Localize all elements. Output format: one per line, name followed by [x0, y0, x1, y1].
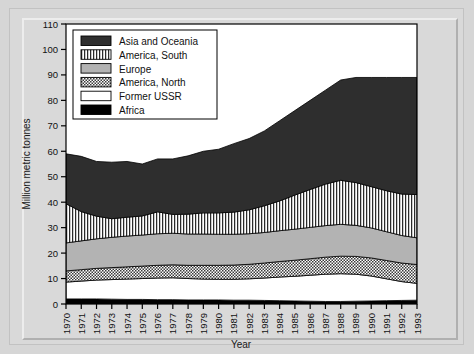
legend-swatch-america-north	[81, 77, 111, 87]
y-axis-ticks: 0102030405060708090100110	[42, 19, 66, 310]
figure-container: 0102030405060708090100110 19701971197219…	[0, 0, 474, 354]
x-tick-label: 1982	[244, 313, 255, 334]
y-tick-label: 100	[42, 44, 58, 55]
legend-swatch-africa	[81, 105, 111, 115]
x-tick-label: 1984	[274, 313, 285, 334]
x-tick-label: 1986	[305, 313, 316, 334]
y-tick-label: 80	[47, 95, 58, 106]
x-tick-label: 1977	[167, 313, 178, 334]
y-tick-label: 90	[47, 69, 58, 80]
x-tick-label: 1993	[412, 313, 423, 334]
legend-label: Asia and Oceania	[119, 36, 198, 47]
legend-label: Former USSR	[119, 91, 182, 102]
x-tick-label: 1975	[137, 313, 148, 334]
x-tick-label: 1989	[350, 313, 361, 334]
y-tick-label: 60	[47, 146, 58, 157]
chart-plot-wrapper: 0102030405060708090100110 19701971197219…	[0, 0, 474, 354]
x-tick-label: 1987	[320, 313, 331, 334]
y-tick-label: 50	[47, 171, 58, 182]
x-tick-label: 1992	[396, 313, 407, 334]
x-tick-label: 1976	[152, 313, 163, 334]
x-tick-label: 1979	[198, 313, 209, 334]
x-tick-label: 1970	[61, 313, 72, 334]
y-tick-label: 10	[47, 273, 58, 284]
y-tick-label: 110	[43, 19, 58, 30]
y-tick-label: 0	[53, 299, 58, 310]
y-axis-title: Million metric tonnes	[21, 118, 32, 209]
x-axis-ticks: 1970197119721973197419751976197719781979…	[61, 304, 423, 334]
legend-label: Europe	[119, 64, 152, 75]
stacked-area-chart: 0102030405060708090100110 19701971197219…	[0, 0, 474, 354]
y-tick-label: 20	[47, 248, 58, 259]
legend-swatch-asia-and-oceania	[81, 36, 111, 46]
legend-swatch-former-ussr	[81, 91, 111, 101]
legend-label: Africa	[119, 105, 145, 116]
legend-swatch-america-south	[81, 50, 111, 60]
x-tick-label: 1991	[381, 313, 392, 334]
x-tick-label: 1981	[228, 313, 239, 334]
y-tick-label: 30	[47, 222, 58, 233]
x-axis-title: Year	[231, 339, 252, 350]
x-tick-label: 1973	[106, 313, 117, 334]
y-tick-label: 40	[47, 197, 58, 208]
legend-label: America, South	[119, 50, 187, 61]
x-tick-label: 1983	[259, 313, 270, 334]
x-tick-label: 1971	[76, 313, 87, 334]
x-tick-label: 1978	[183, 313, 194, 334]
legend-swatch-europe	[81, 64, 111, 74]
x-tick-label: 1972	[91, 313, 102, 334]
legend-label: America, North	[119, 77, 186, 88]
chart-legend: Asia and OceaniaAmerica, SouthEuropeAmer…	[73, 30, 217, 119]
y-tick-label: 70	[47, 120, 58, 131]
x-tick-label: 1990	[366, 313, 377, 334]
x-tick-label: 1985	[289, 313, 300, 334]
x-tick-label: 1974	[122, 313, 133, 334]
x-tick-label: 1988	[335, 313, 346, 334]
x-tick-label: 1980	[213, 313, 224, 334]
